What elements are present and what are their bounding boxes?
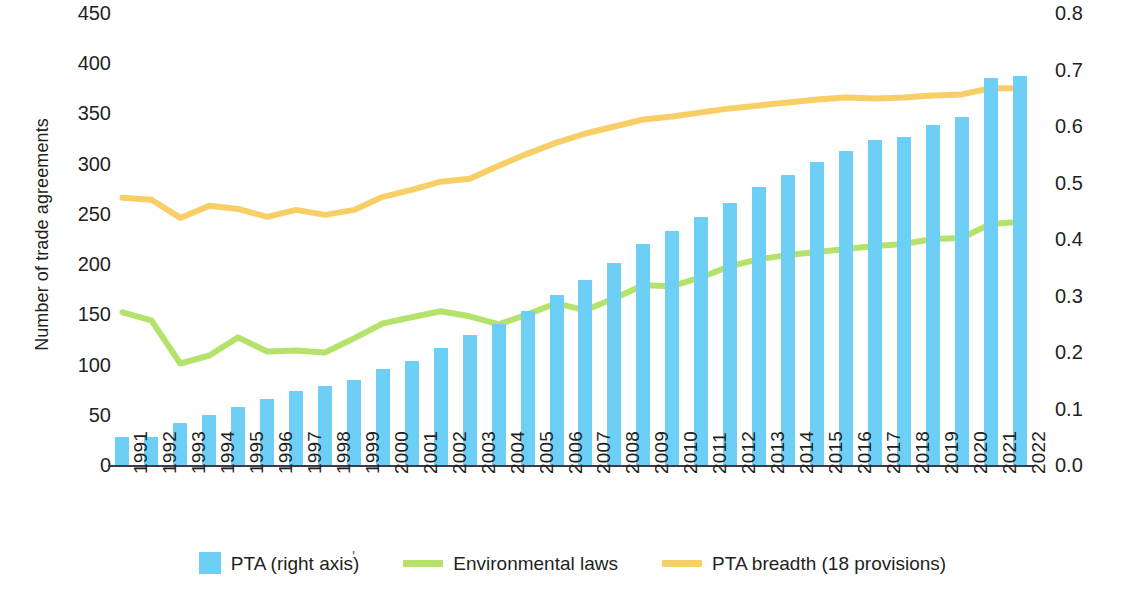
y-tick-left-100: 100: [78, 355, 111, 375]
x-tick-2010: 2010: [680, 431, 702, 474]
x-tick-1996: 1996: [275, 431, 297, 474]
x-tick-2009: 2009: [651, 431, 673, 474]
y-axis-left-title: Number of trade agreements: [32, 85, 53, 385]
bar-2017: [868, 140, 882, 466]
legend-item-2[interactable]: Environmental laws: [403, 554, 618, 573]
x-tick-2005: 2005: [536, 431, 558, 474]
legend-item-1[interactable]: PTA (right axis): [199, 552, 359, 574]
chart-legend: PTA (right axis)Environmental lawsPTA br…: [0, 552, 1145, 574]
y-tick-right-0.3: 0.3: [1055, 286, 1083, 306]
bar-2020: [955, 117, 969, 466]
y-tick-right-0.4: 0.4: [1055, 229, 1083, 249]
legend-line-swatch-icon: [662, 560, 702, 567]
y-tick-right-0.6: 0.6: [1055, 116, 1083, 136]
x-tick-1993: 1993: [188, 431, 210, 474]
y-tick-right-0.7: 0.7: [1055, 60, 1083, 80]
legend-label: PTA (right axis): [231, 554, 359, 573]
bar-2015: [810, 162, 824, 466]
line-series-layer: [108, 14, 1034, 466]
x-tick-1997: 1997: [304, 431, 326, 474]
chart-container: Number of trade agreements Share of trad…: [0, 0, 1145, 592]
x-tick-2001: 2001: [420, 431, 442, 474]
x-tick-2000: 2000: [391, 431, 413, 474]
x-tick-2022: 2022: [1028, 431, 1050, 474]
x-tick-2015: 2015: [825, 431, 847, 474]
x-tick-2019: 2019: [941, 431, 963, 474]
x-tick-2002: 2002: [449, 431, 471, 474]
x-tick-2018: 2018: [912, 431, 934, 474]
bar-2014: [781, 175, 795, 466]
y-tick-left-450: 450: [78, 3, 111, 23]
line-pta-breadth: [123, 88, 1020, 218]
bar-2021: [984, 78, 998, 466]
y-tick-right-0.5: 0.5: [1055, 173, 1083, 193]
x-tick-1991: 1991: [130, 431, 152, 474]
legend-item-3[interactable]: PTA breadth (18 provisions): [662, 554, 946, 573]
x-tick-2013: 2013: [767, 431, 789, 474]
x-tick-2006: 2006: [565, 431, 587, 474]
x-tick-2016: 2016: [854, 431, 876, 474]
x-tick-2003: 2003: [478, 431, 500, 474]
x-tick-2020: 2020: [970, 431, 992, 474]
legend-stray-mark: ': [352, 549, 355, 567]
x-tick-2004: 2004: [507, 431, 529, 474]
plot-area: [108, 14, 1034, 466]
x-tick-2008: 2008: [622, 431, 644, 474]
y-tick-left-150: 150: [78, 304, 111, 324]
x-tick-1999: 1999: [362, 431, 384, 474]
bar-2012: [723, 203, 737, 466]
legend-label: PTA breadth (18 provisions): [712, 554, 946, 573]
bar-2018: [897, 137, 911, 466]
bar-2016: [839, 151, 853, 466]
bar-2022: [1013, 76, 1027, 466]
x-tick-2007: 2007: [593, 431, 615, 474]
x-tick-2017: 2017: [883, 431, 905, 474]
bar-2019: [926, 125, 940, 467]
y-tick-right-0.2: 0.2: [1055, 342, 1083, 362]
legend-label: Environmental laws: [453, 554, 618, 573]
y-tick-left-400: 400: [78, 53, 111, 73]
x-tick-1995: 1995: [246, 431, 268, 474]
x-tick-2012: 2012: [738, 431, 760, 474]
legend-bar-swatch-icon: [199, 552, 221, 574]
y-tick-right-0.8: 0.8: [1055, 3, 1083, 23]
line-environmental-laws: [123, 222, 1020, 364]
legend-line-swatch-icon: [403, 560, 443, 567]
y-tick-left-250: 250: [78, 204, 111, 224]
bar-2011: [694, 217, 708, 466]
bar-1991: [115, 437, 129, 466]
y-tick-left-350: 350: [78, 103, 111, 123]
y-tick-left-200: 200: [78, 254, 111, 274]
x-tick-2021: 2021: [999, 431, 1021, 474]
y-tick-left-300: 300: [78, 154, 111, 174]
y-tick-right-0.0: 0.0: [1055, 455, 1083, 475]
x-tick-1998: 1998: [333, 431, 355, 474]
y-tick-right-0.1: 0.1: [1055, 399, 1083, 419]
x-tick-1992: 1992: [159, 431, 181, 474]
x-tick-2011: 2011: [709, 432, 731, 474]
x-tick-2014: 2014: [796, 431, 818, 474]
bar-2013: [752, 187, 766, 466]
x-tick-1994: 1994: [217, 431, 239, 474]
